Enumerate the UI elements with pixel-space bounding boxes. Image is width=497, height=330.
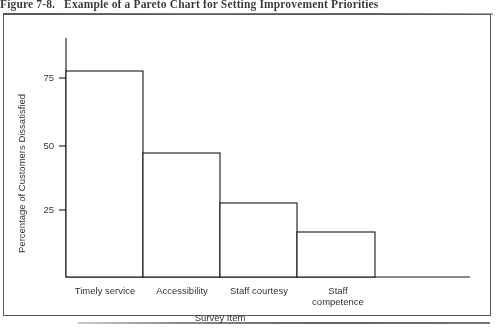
figure-caption-text: Example of a Pareto Chart for Setting Im… xyxy=(64,0,378,10)
figure-caption: Figure 7-8.Example of a Pareto Chart for… xyxy=(0,0,497,12)
x-category-label-2: Staff courtesy xyxy=(218,285,300,296)
y-tick-label-75: 75 xyxy=(32,72,54,83)
x-category-label-3: Staff competence xyxy=(306,285,370,307)
x-category-label-0: Timely service xyxy=(62,285,148,296)
x-axis-title: Survey Item xyxy=(155,312,285,323)
figure-number: Figure 7-8. xyxy=(0,0,55,10)
y-tick-label-25: 25 xyxy=(32,204,54,215)
figure-frame xyxy=(3,14,491,316)
y-tick-label-50: 50 xyxy=(32,140,54,151)
x-category-label-1: Accessibility xyxy=(140,285,224,296)
y-axis-title: Percentage of Customers Dissatisfied xyxy=(16,69,27,279)
